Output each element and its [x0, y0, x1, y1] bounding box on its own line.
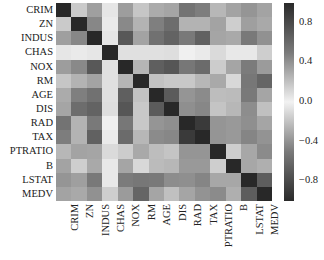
heatmap-cell	[118, 102, 133, 116]
heatmap-cell	[241, 187, 256, 201]
heatmap-cell	[149, 159, 164, 173]
y-tick-label: NOX	[0, 60, 53, 74]
heatmap-cell	[71, 60, 86, 74]
heatmap-cell	[87, 116, 102, 130]
y-axis-labels: CRIMZNINDUSCHASNOXRMAGEDISRADTAXPTRATIOB…	[0, 3, 53, 201]
heatmap-cell	[241, 31, 256, 45]
heatmap-cell	[210, 144, 225, 158]
heatmap-cell	[241, 159, 256, 173]
heatmap-cell	[257, 173, 272, 187]
heatmap-cell	[118, 31, 133, 45]
y-tick-label: MEDV	[0, 187, 53, 201]
heatmap-cell	[149, 102, 164, 116]
heatmap-cell	[179, 88, 194, 102]
heatmap-cell	[257, 31, 272, 45]
heatmap-cell	[133, 159, 148, 173]
heatmap-cell	[149, 3, 164, 17]
heatmap-cell	[257, 74, 272, 88]
colorbar-tick-label: 0.4	[299, 55, 312, 66]
heatmap-cell	[226, 130, 241, 144]
heatmap-cell	[71, 130, 86, 144]
heatmap-cell	[226, 102, 241, 116]
y-tick-label: DIS	[0, 102, 53, 116]
heatmap-cell	[133, 74, 148, 88]
heatmap-cell	[149, 173, 164, 187]
heatmap-cell	[210, 130, 225, 144]
x-tick: B	[226, 204, 241, 260]
heatmap-cell	[257, 17, 272, 31]
heatmap-cell	[71, 102, 86, 116]
heatmap-cell	[164, 3, 179, 17]
heatmap-cell	[226, 187, 241, 201]
heatmap-cell	[102, 159, 117, 173]
heatmap-cell	[179, 74, 194, 88]
heatmap-cell	[241, 88, 256, 102]
heatmap-cell	[195, 74, 210, 88]
heatmap-cell	[257, 102, 272, 116]
x-tick: CHAS	[102, 204, 117, 260]
heatmap-cell	[241, 102, 256, 116]
heatmap-cell	[118, 159, 133, 173]
heatmap-cell	[164, 144, 179, 158]
heatmap-cell	[164, 74, 179, 88]
heatmap-cell	[71, 88, 86, 102]
heatmap-cell	[179, 45, 194, 59]
x-tick: AGE	[149, 204, 164, 260]
heatmap-cell	[195, 60, 210, 74]
heatmap-cell	[179, 144, 194, 158]
heatmap-cell	[179, 3, 194, 17]
heatmap-cell	[56, 173, 71, 187]
heatmap-cell	[257, 60, 272, 74]
y-tick-label: PTRATIO	[0, 144, 53, 158]
heatmap-cell	[179, 159, 194, 173]
y-tick-label: LSTAT	[0, 173, 53, 187]
heatmap-cell	[118, 144, 133, 158]
heatmap-cell	[118, 45, 133, 59]
heatmap-cell	[87, 60, 102, 74]
heatmap-cell	[210, 45, 225, 59]
heatmap-cell	[102, 116, 117, 130]
colorbar-tick-label: 0.0	[299, 95, 312, 106]
heatmap-cell	[179, 31, 194, 45]
heatmap-cell	[149, 88, 164, 102]
heatmap-cell	[71, 116, 86, 130]
colorbar-tick-label: −0.4	[299, 135, 318, 146]
y-tick-label: CHAS	[0, 45, 53, 59]
x-tick: NOX	[118, 204, 133, 260]
heatmap-cell	[149, 116, 164, 130]
heatmap-cell	[257, 45, 272, 59]
heatmap-cell	[257, 130, 272, 144]
heatmap-cell	[87, 74, 102, 88]
heatmap-cell	[102, 31, 117, 45]
heatmap-cell	[241, 45, 256, 59]
heatmap-cell	[195, 144, 210, 158]
x-tick: INDUS	[87, 204, 102, 260]
heatmap-cell	[241, 17, 256, 31]
heatmap-cell	[102, 173, 117, 187]
heatmap-cell	[102, 45, 117, 59]
heatmap-cell	[226, 74, 241, 88]
heatmap-cell	[56, 17, 71, 31]
heatmap-cell	[179, 102, 194, 116]
heatmap-cell	[149, 45, 164, 59]
heatmap-cell	[257, 3, 272, 17]
heatmap-cell	[56, 116, 71, 130]
heatmap-cell	[118, 17, 133, 31]
heatmap-cell	[102, 88, 117, 102]
heatmap-cell	[133, 130, 148, 144]
heatmap-cell	[56, 3, 71, 17]
heatmap-cell	[210, 116, 225, 130]
heatmap-cell	[210, 74, 225, 88]
heatmap-cell	[56, 88, 71, 102]
heatmap-cell	[210, 187, 225, 201]
heatmap-cell	[87, 130, 102, 144]
heatmap-cell	[56, 130, 71, 144]
heatmap-cell	[102, 187, 117, 201]
heatmap-cell	[71, 17, 86, 31]
x-tick: RM	[133, 204, 148, 260]
heatmap-cell	[226, 116, 241, 130]
heatmap-cell	[257, 88, 272, 102]
x-tick: PTRATIO	[210, 204, 225, 260]
heatmap-cell	[102, 3, 117, 17]
heatmap-cell	[87, 31, 102, 45]
